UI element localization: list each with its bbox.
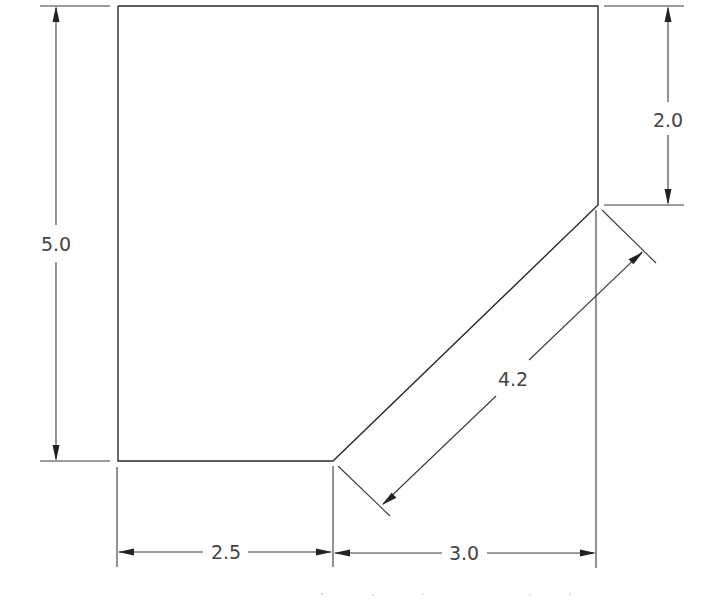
- extension-line-bottom: [338, 466, 390, 516]
- arrow-up-icon: [665, 6, 672, 22]
- arrow-left-icon: [118, 549, 134, 556]
- dimension-left-height: 5.0: [40, 6, 110, 461]
- speck: [372, 594, 373, 595]
- part-outline: [118, 6, 598, 461]
- dimension-right-height: 2.0: [604, 6, 684, 205]
- dimension-diagonal-length: 4.2: [338, 210, 656, 516]
- dimension-label-bottom-left: 2.5: [211, 541, 241, 563]
- arrow-down-icon: [53, 445, 60, 461]
- dimension-label-bottom-right: 3.0: [449, 542, 479, 564]
- arrow-right-icon: [316, 549, 332, 556]
- extension-line-top: [602, 210, 656, 263]
- arrow-left-icon: [334, 550, 350, 557]
- speck: [321, 593, 323, 595]
- speck: [529, 594, 530, 595]
- technical-drawing: 5.0 2.0 2.5 3.0: [0, 0, 716, 602]
- dimension-bottom-right-width: 3.0: [334, 542, 596, 564]
- arrow-up-icon: [53, 6, 60, 22]
- dimension-label-right: 2.0: [653, 109, 683, 131]
- outline-path: [118, 6, 598, 461]
- arrow-right-icon: [580, 550, 596, 557]
- dimension-line-lower: [383, 396, 496, 504]
- dimension-label-left: 5.0: [41, 233, 71, 255]
- dimension-line-upper: [529, 252, 642, 360]
- speck: [422, 593, 423, 594]
- scan-specks: [321, 593, 571, 596]
- speck: [569, 593, 571, 595]
- dimension-label-diagonal: 4.2: [498, 368, 528, 390]
- arrow-down-icon: [665, 189, 672, 205]
- dimension-bottom-left-width: 2.5: [118, 541, 332, 563]
- arrow-down-left-icon: [382, 493, 397, 505]
